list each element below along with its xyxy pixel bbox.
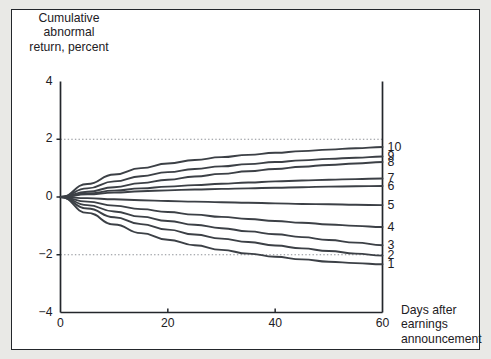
y-tick-label: 2 <box>27 132 53 145</box>
x-tick-label: 0 <box>44 317 78 330</box>
axis-group <box>61 82 383 313</box>
x-tick-label: 60 <box>366 317 400 330</box>
series-label-8: 8 <box>388 156 395 168</box>
series-label-6: 6 <box>388 180 395 192</box>
y-tick-label: 4 <box>27 75 53 88</box>
series-label-4: 4 <box>388 221 395 233</box>
series-label-5: 5 <box>388 199 395 211</box>
x-tick-label: 20 <box>151 317 185 330</box>
series-line-5 <box>61 197 383 205</box>
chart-canvas <box>0 0 491 359</box>
figure-root: Cumulative abnormal return, percent Days… <box>0 0 491 359</box>
plot-area <box>0 0 491 359</box>
series-lines-group <box>61 147 383 264</box>
y-tick-label: −2 <box>27 248 53 261</box>
series-line-1 <box>61 197 383 264</box>
series-label-1: 1 <box>388 258 395 270</box>
y-tick-label: 0 <box>27 190 53 203</box>
x-tick-label: 40 <box>258 317 292 330</box>
